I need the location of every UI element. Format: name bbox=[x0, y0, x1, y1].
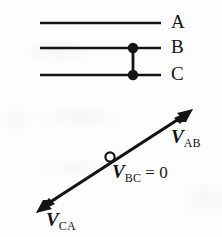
junction-dot-b bbox=[128, 43, 138, 53]
vector-label-vab: VAB bbox=[171, 127, 201, 149]
vector-subscript-vab: AB bbox=[184, 136, 201, 150]
vector-value-vbc: = 0 bbox=[141, 163, 168, 182]
vector-label-vbc: VBC = 0 bbox=[112, 162, 168, 184]
conductor-label-a: A bbox=[171, 12, 185, 31]
vector-label-vca: VCA bbox=[46, 210, 76, 232]
vector-symbol-vab: V bbox=[171, 126, 184, 147]
vector-subscript-vca: CA bbox=[59, 219, 76, 233]
figure-vector-graphics bbox=[0, 0, 222, 237]
vector-symbol-vca: V bbox=[46, 209, 59, 230]
conductor-group bbox=[40, 23, 161, 75]
vector-subscript-vbc: BC bbox=[125, 171, 141, 185]
bc-short-circuit-link bbox=[128, 43, 138, 80]
conductor-label-c: C bbox=[171, 64, 184, 83]
figure-canvas: A B C VAB VBC = 0 VCA bbox=[0, 0, 222, 237]
conductor-label-b: B bbox=[171, 37, 184, 56]
junction-dot-c bbox=[128, 70, 138, 80]
vector-symbol-vbc: V bbox=[112, 161, 125, 182]
